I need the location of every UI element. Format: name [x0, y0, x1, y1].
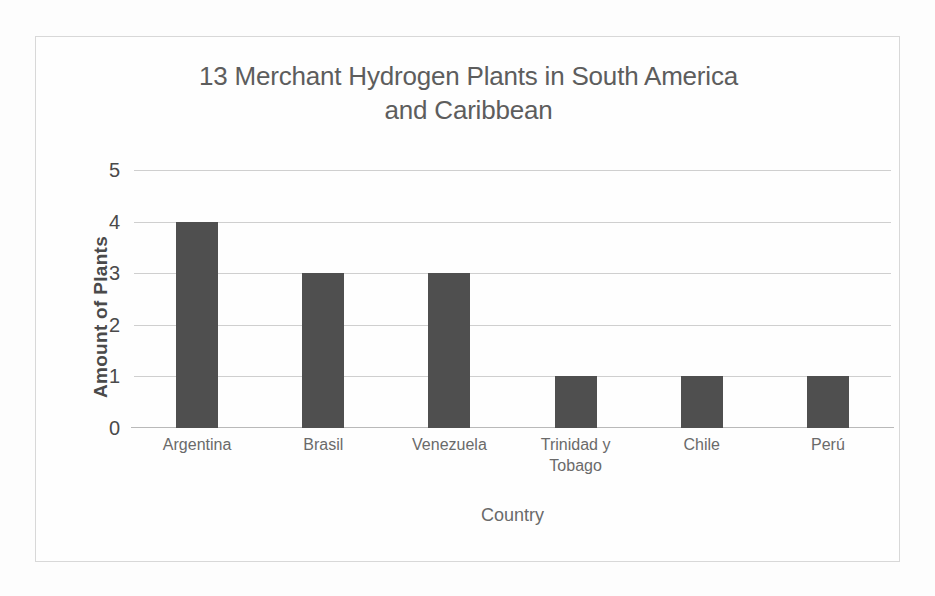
y-tick-label-0: 0 [109, 417, 120, 440]
bar-chile[interactable] [681, 376, 723, 428]
x-label-trinidad-y-tobago: Trinidad y Tobago [513, 434, 639, 476]
x-axis-title: Country [134, 505, 891, 526]
chart-figure-frame: 13 Merchant Hydrogen Plants in South Ame… [35, 36, 900, 562]
bar-brasil[interactable] [302, 273, 344, 428]
x-label-argentina: Argentina [134, 434, 260, 476]
x-label-peru: Perú [765, 434, 891, 476]
y-tick-label-4: 4 [109, 210, 120, 233]
chart-title: 13 Merchant Hydrogen Plants in South Ame… [136, 59, 801, 127]
chart-title-line-1: 13 Merchant Hydrogen Plants in South Ame… [136, 59, 801, 93]
y-tick-label-2: 2 [109, 313, 120, 336]
bar-slot-peru [765, 170, 891, 428]
bar-argentina[interactable] [176, 222, 218, 428]
bar-peru[interactable] [807, 376, 849, 428]
y-tick-label-5: 5 [109, 159, 120, 182]
bar-slot-trinidad-y-tobago [513, 170, 639, 428]
chart-title-line-2: and Caribbean [136, 93, 801, 127]
bar-trinidad-y-tobago[interactable] [555, 376, 597, 428]
bar-venezuela[interactable] [428, 273, 470, 428]
bar-slot-brasil [260, 170, 386, 428]
x-label-brasil: Brasil [260, 434, 386, 476]
x-label-venezuela: Venezuela [386, 434, 512, 476]
x-axis-category-labels: Argentina Brasil Venezuela Trinidad y To… [134, 434, 891, 476]
bar-series [134, 170, 891, 428]
bar-slot-chile [639, 170, 765, 428]
bar-slot-argentina [134, 170, 260, 428]
y-tick-label-1: 1 [109, 365, 120, 388]
plot-area: 5 4 3 2 1 0 [134, 170, 891, 428]
x-label-chile: Chile [639, 434, 765, 476]
y-tick-label-3: 3 [109, 262, 120, 285]
scanned-page: 13 Merchant Hydrogen Plants in South Ame… [0, 0, 935, 596]
bar-slot-venezuela [386, 170, 512, 428]
